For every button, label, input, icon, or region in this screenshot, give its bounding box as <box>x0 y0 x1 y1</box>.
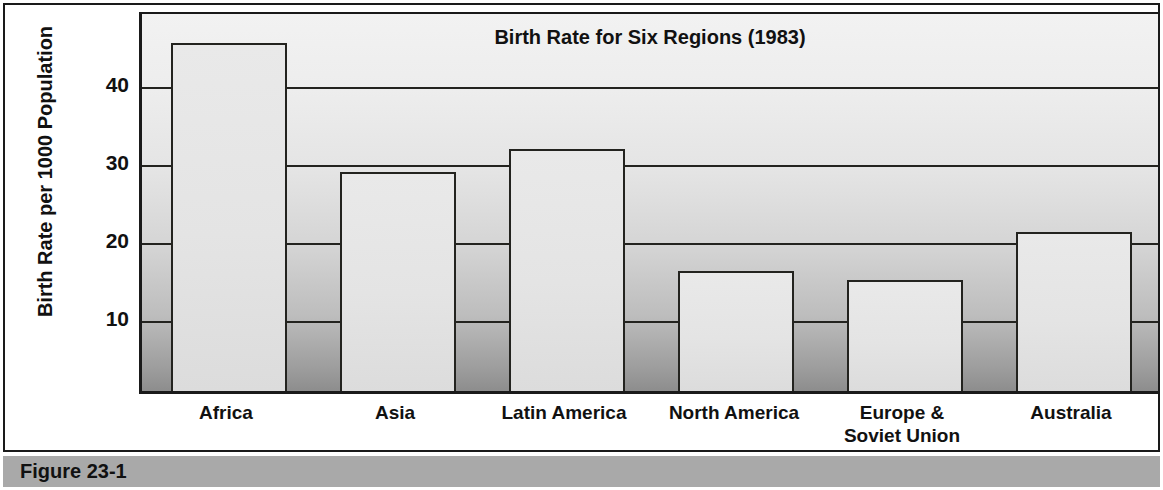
figure-caption-band: Figure 23-1 <box>3 456 1160 487</box>
y-axis-title: Birth Rate per 1000 Population <box>34 0 57 372</box>
y-tick-label-20: 20 <box>106 229 129 253</box>
chart-title: Birth Rate for Six Regions (1983) <box>142 26 1158 49</box>
y-tick-label-30: 30 <box>106 151 129 175</box>
x-label-asia: Asia <box>327 401 463 424</box>
y-tick-label-10: 10 <box>106 307 129 331</box>
chart-frame: Birth Rate per 1000 Population 40 30 20 … <box>3 3 1160 452</box>
x-label-africa: Africa <box>158 401 294 424</box>
figure-caption-text: Figure 23-1 <box>20 460 127 483</box>
bar-australia[interactable] <box>1016 232 1132 391</box>
x-axis-category-labels: Africa Asia Latin America North America … <box>139 397 1158 453</box>
bar-asia[interactable] <box>340 172 456 391</box>
y-axis-tick-labels: 40 30 20 10 <box>65 5 135 451</box>
x-label-latin-america: Latin America <box>496 401 632 424</box>
x-label-north-america: North America <box>661 401 807 424</box>
bar-africa[interactable] <box>171 43 287 391</box>
plot-area: Birth Rate for Six Regions (1983) <box>139 12 1158 394</box>
bar-europe-soviet-union[interactable] <box>847 280 963 391</box>
x-label-australia: Australia <box>1003 401 1139 424</box>
figure-container: Birth Rate per 1000 Population 40 30 20 … <box>0 0 1163 490</box>
x-label-europe-soviet-union: Europe & Soviet Union <box>834 401 970 447</box>
bar-north-america[interactable] <box>678 271 794 391</box>
bars-layer <box>142 14 1158 391</box>
bar-latin-america[interactable] <box>509 149 625 391</box>
y-tick-label-40: 40 <box>106 73 129 97</box>
